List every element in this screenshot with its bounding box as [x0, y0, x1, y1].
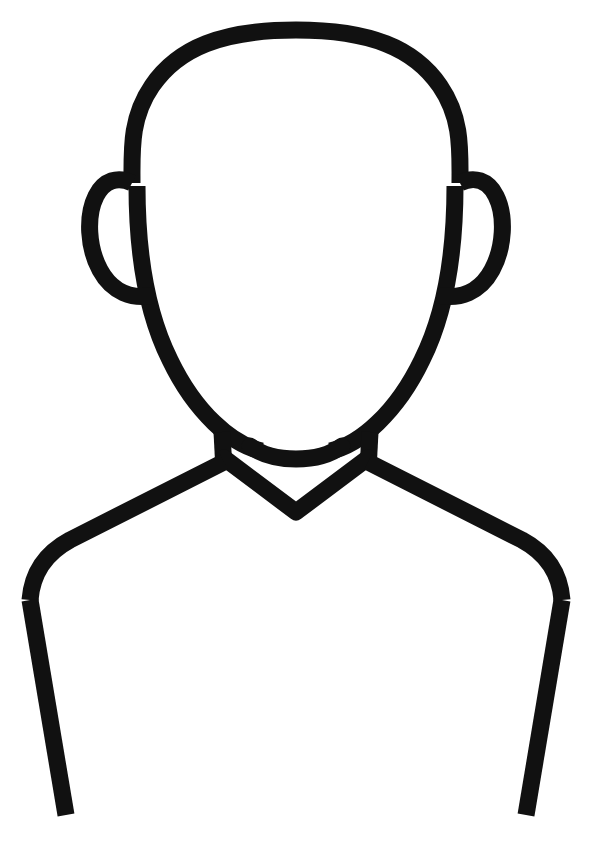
right-arm [526, 600, 562, 815]
left-shoulder [30, 462, 224, 600]
jaw-right [330, 186, 455, 451]
head-outline [132, 30, 460, 183]
jaw-left [137, 186, 262, 451]
avatar-page: Anonymous Avatar Outline Line-art silhou… [0, 0, 592, 847]
left-arm [30, 600, 66, 815]
chin-jaw [250, 446, 342, 459]
head-and-shoulders-outline [0, 0, 592, 847]
right-shoulder [368, 462, 562, 600]
